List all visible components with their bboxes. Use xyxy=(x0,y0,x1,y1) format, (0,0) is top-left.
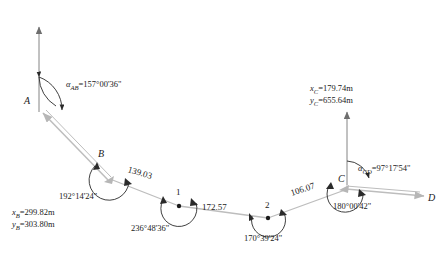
bearing-value-CD: 97°17'54" xyxy=(376,163,410,173)
angle-value-C: 180°00'42" xyxy=(333,202,371,211)
coordinate-B-y: yB=303.80m xyxy=(12,220,55,229)
coordinate-C-x: xC=179.74m xyxy=(310,84,353,93)
angle-value-B: 192°14'24" xyxy=(59,192,97,201)
distance-label-1-2: 172.57 xyxy=(202,203,227,212)
coordinate-B-x: xB=299.82m xyxy=(12,208,55,217)
traverse-leg-AB xyxy=(43,110,111,180)
station-dot-1 xyxy=(177,204,181,208)
bearing-label-CD: αCD=97°17'54" xyxy=(358,164,410,173)
station-dot-2 xyxy=(266,216,270,220)
bearing-label-AB: αAB=157°00'36" xyxy=(66,80,122,89)
point-label-B: B xyxy=(98,149,104,159)
coordinate-B-y-value: =303.80m xyxy=(20,219,55,229)
point-label-C: C xyxy=(338,174,345,184)
traverse-diagram: A B 1 2 C D αAB=157°00'36" αCD=97°17'54"… xyxy=(0,0,444,263)
point-label-A: A xyxy=(24,96,30,106)
angle-arc-A xyxy=(39,77,62,110)
coordinate-B-x-value: =299.82m xyxy=(20,207,55,217)
angle-value-1: 236°48'36" xyxy=(131,224,169,233)
point-label-2: 2 xyxy=(265,201,270,210)
bearing-subscript-AB: AB xyxy=(70,84,78,91)
diagram-canvas xyxy=(0,0,444,263)
angle-value-2: 170°39'24" xyxy=(244,234,282,243)
bearing-value-AB: 157°00'36" xyxy=(83,79,121,89)
coordinate-C-x-value: =179.74m xyxy=(318,83,353,93)
coordinate-C-y: yC=655.64m xyxy=(310,96,353,105)
bearing-subscript-CD: CD xyxy=(362,168,371,175)
coordinate-C-y-value: =655.64m xyxy=(318,95,353,105)
traverse-leg-B-1 xyxy=(104,176,179,206)
traverse-leg-CD xyxy=(339,185,424,196)
point-label-D: D xyxy=(428,193,435,203)
point-label-1: 1 xyxy=(176,188,181,197)
